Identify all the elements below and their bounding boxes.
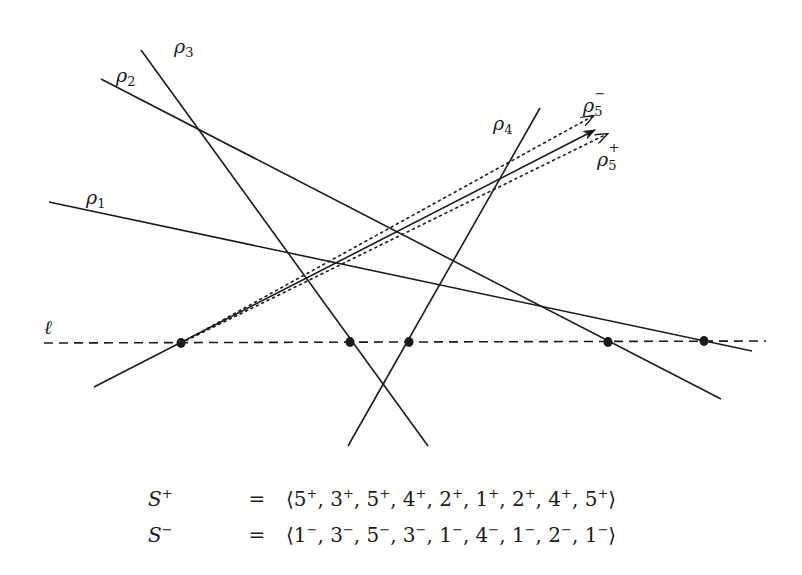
- intersection-point: [405, 337, 414, 347]
- label-rho4: ρ4: [492, 112, 512, 137]
- intersection-point: [604, 337, 613, 347]
- intersection-point: [700, 336, 709, 346]
- line-rho5: [94, 130, 595, 387]
- line-rho1: [49, 202, 752, 351]
- eq-op: =: [228, 523, 286, 547]
- equation-s-minus: S−=⟨1−, 3−, 5−, 3−, 1−, 4−, 1−, 2−, 1−⟩: [148, 522, 616, 547]
- eq-sequence: ⟨5+, 3+, 5+, 4+, 2+, 1+, 2+, 4+, 5+⟩: [286, 487, 616, 511]
- line-rho5-plus: [181, 134, 607, 343]
- eq-op: =: [228, 487, 286, 511]
- label-rho1: ρ1: [85, 186, 105, 211]
- label-rho3: ρ3: [173, 35, 193, 60]
- label-rho5-plus: ρ5+: [596, 140, 619, 173]
- intersection-point: [346, 337, 355, 347]
- eq-sequence: ⟨1−, 3−, 5−, 3−, 1−, 4−, 1−, 2−, 1−⟩: [286, 523, 616, 547]
- line-rho5-minus: [181, 116, 593, 343]
- line-rho4: [348, 108, 540, 446]
- label-rho5-minus: ρ5−: [582, 86, 605, 119]
- intersection-point: [177, 338, 186, 348]
- equation-s-plus: S+=⟨5+, 3+, 5+, 4+, 2+, 1+, 2+, 4+, 5+⟩: [148, 486, 616, 511]
- line-rho3: [141, 50, 428, 446]
- line-rho2: [101, 79, 721, 399]
- baseline-label: ℓ: [44, 316, 52, 338]
- eq-lhs: S−: [148, 522, 228, 547]
- label-rho2: ρ2: [115, 64, 135, 89]
- eq-lhs: S+: [148, 486, 228, 511]
